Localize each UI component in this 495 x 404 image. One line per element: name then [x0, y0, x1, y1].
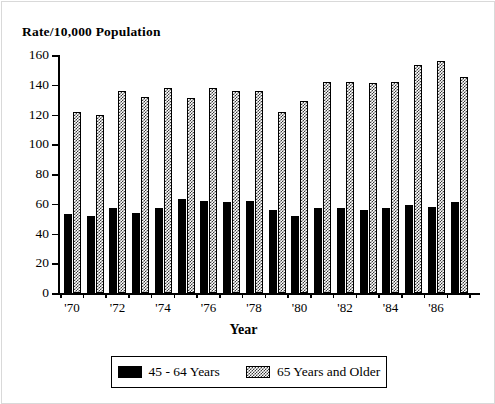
bar-65-older-1986: [437, 61, 445, 293]
bar-45-64-1982: [337, 208, 345, 293]
x-tick-mark-1970: [60, 293, 62, 298]
y-tick-label: 40: [36, 227, 50, 241]
x-tick-label-1978: '78: [246, 301, 261, 314]
bar-65-older-1971: [96, 115, 104, 294]
solid-black-swatch-icon: [118, 366, 142, 378]
bar-series-container: [58, 55, 480, 293]
bar-group-1980: [291, 55, 314, 293]
x-axis-line: [58, 293, 480, 295]
y-tick-mark: [52, 293, 58, 295]
bar-65-older-1970: [73, 112, 81, 293]
bar-65-older-1982: [346, 82, 354, 293]
x-tick-label-1974: '74: [155, 301, 170, 314]
x-tick-mark-1973: [128, 293, 130, 298]
bar-45-64-1984: [382, 208, 390, 293]
bar-45-64-1986: [428, 207, 436, 293]
bar-65-older-1974: [164, 88, 172, 293]
bar-65-older-1978: [255, 91, 263, 293]
bar-45-64-1975: [178, 199, 186, 293]
bar-group-1975: [178, 55, 201, 293]
bar-group-1976: [200, 55, 223, 293]
y-tick-label: 140: [29, 78, 49, 92]
bar-65-older-1981: [323, 82, 331, 293]
bar-45-64-1971: [87, 216, 95, 293]
x-tick-mark-1982: [333, 293, 335, 298]
bar-group-1981: [314, 55, 337, 293]
bar-45-64-1979: [269, 210, 277, 293]
x-tick-mark-1986: [424, 293, 426, 298]
bar-group-1978: [246, 55, 269, 293]
hatched-swatch-icon: [246, 366, 270, 378]
bar-65-older-1987: [460, 77, 468, 293]
y-tick-label: 120: [29, 108, 49, 122]
x-tick-label-1972: '72: [110, 301, 125, 314]
x-tick-mark-1984: [378, 293, 380, 298]
bar-65-older-1984: [391, 82, 399, 293]
bar-group-1983: [360, 55, 383, 293]
bar-45-64-1980: [291, 216, 299, 293]
x-axis-title: Year: [0, 322, 495, 338]
bar-45-64-1972: [109, 208, 117, 293]
chart-title: Rate/10,000 Population: [22, 24, 161, 40]
bar-group-1982: [337, 55, 360, 293]
bar-65-older-1976: [209, 88, 217, 293]
x-tick-mark-1978: [242, 293, 244, 298]
x-tick-mark-1985: [401, 293, 403, 298]
bar-45-64-1983: [360, 210, 368, 293]
x-tick-label-1980: '80: [292, 301, 307, 314]
x-tick-mark-1977: [219, 293, 221, 298]
x-tick-label-1982: '82: [337, 301, 352, 314]
bar-group-1987: [451, 55, 474, 293]
bar-group-1972: [109, 55, 132, 293]
x-tick-mark-end: [469, 293, 471, 298]
bar-65-older-1977: [232, 91, 240, 293]
bar-45-64-1978: [246, 201, 254, 293]
bar-45-64-1970: [64, 214, 72, 293]
legend-entry-45-64: 45 - 64 Years: [118, 364, 220, 380]
bar-group-1979: [269, 55, 292, 293]
x-tick-label-1976: '76: [201, 301, 216, 314]
chart-legend: 45 - 64 Years 65 Years and Older: [111, 356, 387, 388]
bar-45-64-1981: [314, 208, 322, 293]
bar-65-older-1980: [300, 101, 308, 293]
bar-group-1974: [155, 55, 178, 293]
bar-group-1971: [87, 55, 110, 293]
legend-label-45-64: 45 - 64 Years: [149, 364, 220, 380]
bar-45-64-1987: [451, 202, 459, 293]
bar-group-1985: [405, 55, 428, 293]
y-tick-label: 20: [36, 256, 50, 270]
bar-45-64-1985: [405, 205, 413, 293]
x-tick-mark-1987: [447, 293, 449, 298]
bar-65-older-1975: [187, 98, 195, 293]
x-tick-mark-1971: [83, 293, 85, 298]
bar-65-older-1973: [141, 97, 149, 293]
bar-65-older-1985: [414, 65, 422, 293]
x-tick-mark-1981: [310, 293, 312, 298]
y-tick-label: 80: [36, 167, 50, 181]
legend-label-65-older: 65 Years and Older: [277, 364, 381, 380]
bar-group-1986: [428, 55, 451, 293]
bar-65-older-1979: [278, 112, 286, 293]
x-tick-mark-1979: [265, 293, 267, 298]
bar-group-1973: [132, 55, 155, 293]
bar-group-1970: [64, 55, 87, 293]
bar-group-1984: [382, 55, 405, 293]
bar-45-64-1977: [223, 202, 231, 293]
y-tick-label: 60: [36, 197, 50, 211]
x-tick-mark-1980: [287, 293, 289, 298]
y-tick-label: 160: [29, 48, 49, 62]
x-tick-label-1984: '84: [383, 301, 398, 314]
x-tick-mark-1972: [105, 293, 107, 298]
y-tick-label: 100: [29, 137, 49, 151]
legend-entry-65-older: 65 Years and Older: [246, 364, 381, 380]
bar-65-older-1972: [118, 91, 126, 293]
bar-45-64-1976: [200, 201, 208, 293]
x-tick-label-1986: '86: [428, 301, 443, 314]
x-tick-mark-1975: [174, 293, 176, 298]
bar-group-1977: [223, 55, 246, 293]
x-tick-mark-1976: [196, 293, 198, 298]
bar-65-older-1983: [369, 83, 377, 293]
x-axis-title-text: Year: [230, 322, 258, 338]
y-tick-label: 0: [42, 286, 49, 300]
bar-45-64-1973: [132, 213, 140, 293]
